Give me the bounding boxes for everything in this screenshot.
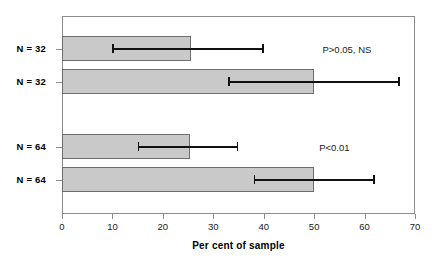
y-axis-label: N = 64 [17,174,46,185]
chart-figure: N = 32N = 32N = 64N = 64 P>0.05, NSP<0.0… [0,0,434,267]
error-bar [228,77,399,86]
x-axis-tick-label: 30 [208,221,219,232]
error-bar [112,44,263,53]
y-axis-labels: N = 32N = 32N = 64N = 64 [0,16,56,214]
x-axis-tick-label: 10 [107,221,118,232]
y-axis-label: N = 64 [17,141,46,152]
x-axis-tick-label: 60 [359,221,370,232]
error-bar-cap-high [398,77,400,86]
error-bar-cap-high [373,175,375,184]
error-bar-line [112,48,263,50]
error-bar-cap-high [237,142,239,151]
chart-annotation: P<0.01 [319,141,349,152]
error-bar [254,175,375,184]
x-axis-tick [213,214,214,219]
x-axis-tick [314,214,315,219]
x-axis-tick-label: 40 [258,221,269,232]
y-axis-label: N = 32 [17,76,46,87]
bars-layer: P>0.05, NSP<0.01 [62,16,415,214]
error-bar-line [254,179,375,181]
x-axis-tick [365,214,366,219]
x-axis-tick [415,214,416,219]
x-axis-tick-label: 50 [309,221,320,232]
error-bar [138,142,239,151]
x-axis-tick [62,214,63,219]
x-axis-tick [112,214,113,219]
y-axis-label: N = 32 [17,43,46,54]
error-bar-line [138,146,239,148]
x-axis-tick-label: 0 [59,221,64,232]
x-axis-tick-label: 70 [410,221,421,232]
error-bar-line [228,81,399,83]
x-axis-title: Per cent of sample [62,240,415,251]
chart-annotation: P>0.05, NS [322,43,371,54]
error-bar-cap-high [262,44,264,53]
x-axis-tick [264,214,265,219]
x-axis-tick [163,214,164,219]
x-axis-tick-label: 20 [158,221,169,232]
x-axis: 010203040506070 [62,214,415,240]
